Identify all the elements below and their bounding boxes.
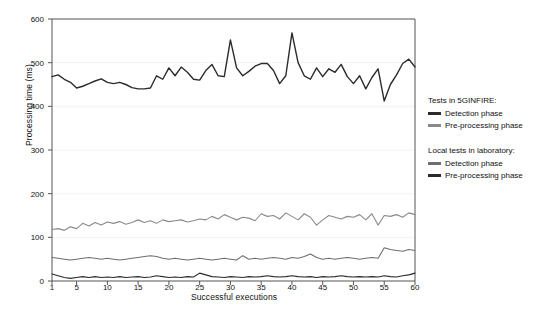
- x-tick-label: 25: [188, 283, 212, 292]
- series-line-1: [52, 213, 415, 230]
- legend-group-1: Local tests in laboratory:Detection phas…: [428, 146, 542, 180]
- x-tick-label: 40: [280, 283, 304, 292]
- x-tick-label: 45: [311, 283, 335, 292]
- x-tick-label: 20: [157, 283, 181, 292]
- series-line-3: [52, 273, 415, 278]
- x-tick-label: 15: [126, 283, 150, 292]
- legend-group-0: Tests in 5GINFIRE:Detection phasePre-pro…: [428, 96, 542, 130]
- x-tick-label: 55: [372, 283, 396, 292]
- legend-group-title: Tests in 5GINFIRE:: [428, 96, 542, 105]
- y-tick-label: 600: [14, 15, 44, 24]
- x-tick-label: 35: [249, 283, 273, 292]
- legend-group-title: Local tests in laboratory:: [428, 146, 542, 155]
- chart-legend: Tests in 5GINFIRE:Detection phasePre-pro…: [428, 96, 542, 196]
- legend-item-label: Detection phase: [445, 109, 503, 118]
- y-tick-label: 500: [14, 58, 44, 67]
- legend-item[interactable]: Pre-processing phase: [428, 121, 542, 130]
- series-line-0: [52, 33, 415, 101]
- x-tick-label: 1: [40, 283, 64, 292]
- legend-swatch-icon: [428, 124, 441, 127]
- x-axis-title: Successful executions: [52, 292, 416, 302]
- x-tick-label: 10: [95, 283, 119, 292]
- y-tick-label: 300: [14, 146, 44, 155]
- legend-swatch-icon: [428, 112, 441, 115]
- legend-item-label: Detection phase: [445, 159, 503, 168]
- x-tick-label: 5: [65, 283, 89, 292]
- x-tick-label: 60: [403, 283, 427, 292]
- y-tick-label: 400: [14, 102, 44, 111]
- y-tick-label: 200: [14, 189, 44, 198]
- legend-item[interactable]: Detection phase: [428, 109, 542, 118]
- legend-item-label: Pre-processing phase: [445, 121, 523, 130]
- chart-figure: Processing time (ms) Successful executio…: [0, 0, 544, 314]
- legend-item-label: Pre-processing phase: [445, 171, 523, 180]
- x-tick-label: 30: [218, 283, 242, 292]
- legend-item[interactable]: Pre-processing phase: [428, 171, 542, 180]
- legend-item[interactable]: Detection phase: [428, 159, 542, 168]
- series-line-2: [52, 248, 415, 260]
- x-tick-label: 50: [341, 283, 365, 292]
- y-tick-label: 100: [14, 233, 44, 242]
- legend-swatch-icon: [428, 162, 441, 165]
- legend-swatch-icon: [428, 174, 441, 177]
